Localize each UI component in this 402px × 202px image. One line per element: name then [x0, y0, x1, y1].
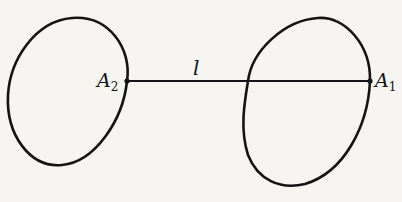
point-a1-dot — [367, 78, 372, 83]
left-contour — [8, 18, 128, 165]
point-label-a2: A2 — [95, 69, 118, 94]
point-label-a1: A1 — [373, 69, 396, 94]
point-a2-dot — [124, 78, 129, 83]
right-contour — [243, 18, 370, 186]
line-label-l: l — [193, 56, 199, 80]
diagram-canvas: l A2 A1 — [0, 0, 402, 202]
